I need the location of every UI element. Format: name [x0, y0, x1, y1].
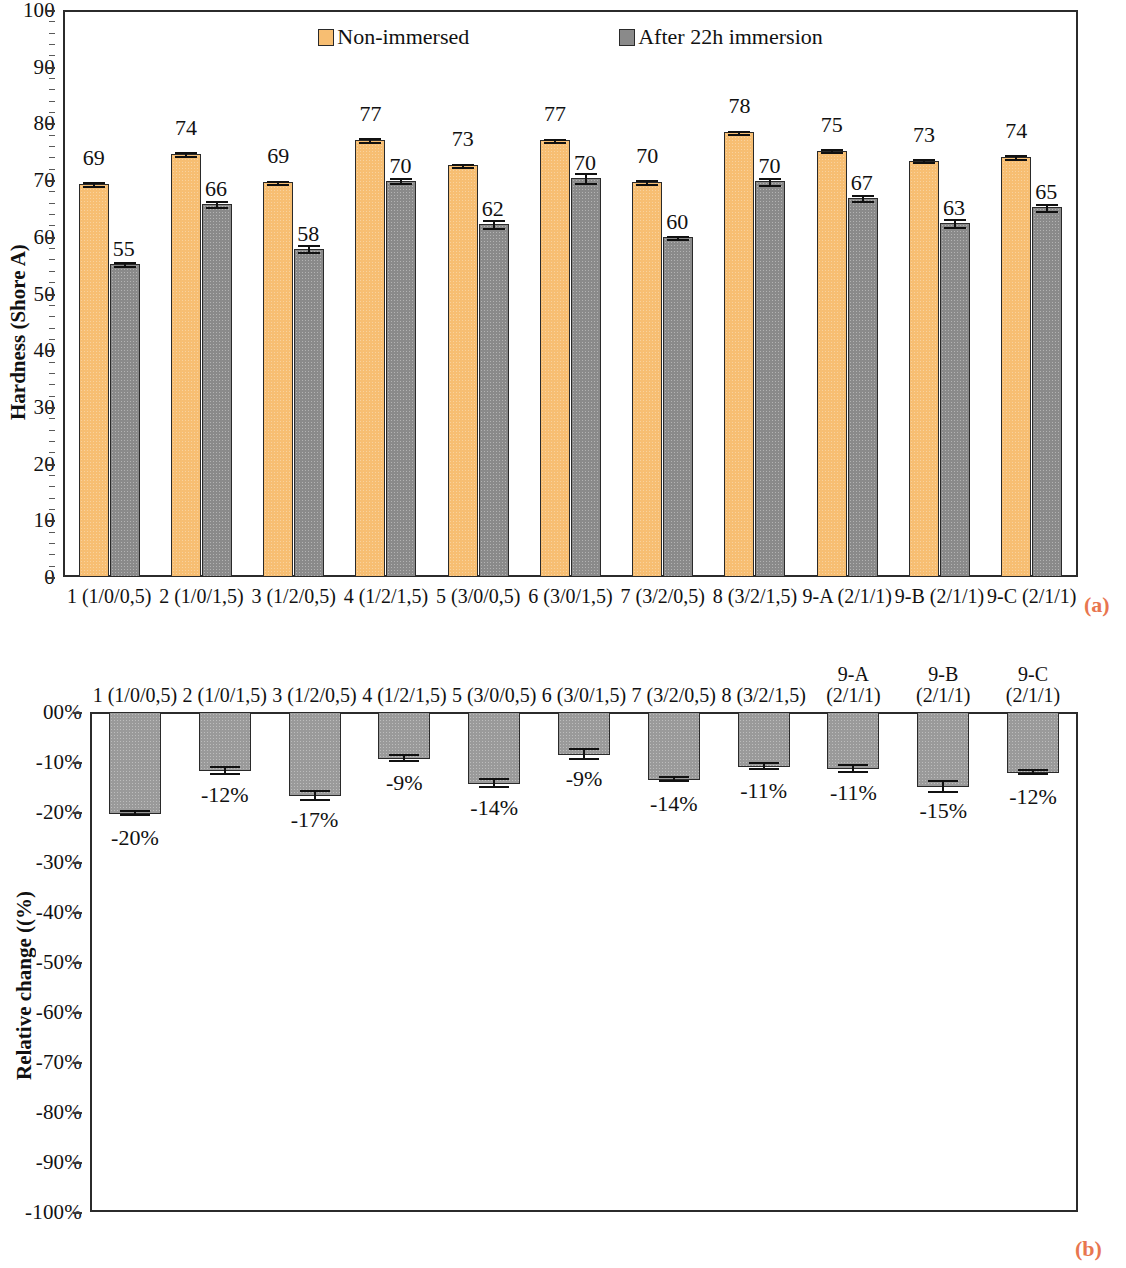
chart-a-y-tick-minor — [49, 430, 55, 431]
chart-a-error-bar — [636, 180, 658, 186]
chart-b-bar-group: -11% — [719, 712, 809, 1212]
chart-a-value-label: 70 — [758, 153, 780, 179]
chart-b-x-label: 9-B(2/1/1) — [898, 664, 988, 707]
chart-a-y-tick-minor — [49, 146, 55, 147]
chart-a-y-tick-minor — [49, 135, 55, 136]
chart-a-error-bar — [359, 138, 381, 144]
chart-a-x-axis-labels: 1 (1/0/0,5)2 (1/0/1,5)3 (1/2/0,5)4 (1/2/… — [63, 585, 1078, 615]
chart-b-bar-group: -15% — [898, 712, 988, 1212]
chart-a-value-label: 74 — [175, 115, 197, 141]
chart-a-value-label: 73 — [452, 126, 474, 152]
chart-a-bar-after-immersion: 63 — [940, 223, 970, 577]
chart-b-bar-relative-change: -9% — [558, 712, 610, 755]
chart-a-value-label: 75 — [821, 112, 843, 138]
chart-b-y-tick-mark — [73, 912, 82, 914]
chart-b-y-tick-label: -10% — [10, 750, 82, 775]
chart-b-error-bar — [928, 780, 958, 793]
chart-b-error-bar — [569, 748, 599, 760]
error-cap-bottom — [114, 266, 136, 268]
chart-a-bar-non-immersed: 70 — [632, 182, 662, 577]
chart-a-x-label: 6 (3/0/1,5) — [524, 585, 616, 615]
chart-b-value-label: -12% — [201, 782, 249, 808]
error-cap-bottom — [389, 760, 419, 762]
chart-b-y-axis-title: Relative change ((%) — [12, 790, 37, 1080]
chart-b-value-label: -11% — [830, 780, 877, 806]
chart-a-y-tick-minor — [49, 475, 55, 476]
chart-a-y-tick-minor — [49, 316, 55, 317]
chart-a-y-tick-minor — [49, 214, 55, 215]
chart-a-x-label: 1 (1/0/0,5) — [63, 585, 155, 615]
chart-b-bar-group: -9% — [359, 712, 449, 1212]
chart-a-y-tick-minor — [49, 157, 55, 158]
chart-b-bars: -20%-12%-17%-9%-14%-9%-14%-11%-11%-15%-1… — [90, 712, 1078, 1212]
chart-a-bar-group: 7870 — [709, 10, 801, 577]
chart-a-y-tick-minor — [49, 532, 55, 533]
chart-a-y-tick-minor — [49, 498, 55, 499]
chart-a-bar-after-immersion: 60 — [663, 237, 693, 577]
chart-a-error-bar — [821, 149, 843, 155]
chart-b-bar-relative-change: -9% — [378, 712, 430, 759]
chart-b-bar-group: -17% — [270, 712, 360, 1212]
chart-a-y-tick-minor — [49, 418, 55, 419]
error-cap-bottom — [928, 791, 958, 793]
chart-a-bar-group: 6955 — [63, 10, 155, 577]
chart-a-bar-after-immersion: 67 — [848, 198, 878, 577]
chart-a-bar-non-immersed: 69 — [263, 182, 293, 577]
chart-a-x-label: 2 (1/0/1,5) — [155, 585, 247, 615]
chart-a-y-tick-mark — [46, 180, 55, 182]
chart-a-bar-non-immersed: 77 — [540, 140, 570, 577]
chart-b-bar-relative-change: -11% — [738, 712, 790, 767]
error-cap-bottom — [838, 771, 868, 773]
chart-b-x-label: 1 (1/0/0,5) — [90, 685, 180, 707]
error-cap-bottom — [210, 773, 240, 775]
chart-b-y-tick-mark — [73, 812, 82, 814]
error-cap-bottom — [544, 142, 566, 144]
chart-a-error-bar — [267, 181, 289, 187]
chart-a-y-tick-mark — [46, 10, 55, 12]
chart-b-x-axis-labels: 1 (1/0/0,5)2 (1/0/1,5)3 (1/2/0,5)4 (1/2/… — [90, 645, 1078, 707]
chart-b-y-tick-label: -80% — [10, 1100, 82, 1125]
chart-a-y-tick-minor — [49, 554, 55, 555]
chart-a-y-tick-minor — [49, 373, 55, 374]
chart-b-value-label: -15% — [919, 798, 967, 824]
chart-a-y-tick-minor — [49, 44, 55, 45]
chart-b-value-label: -14% — [470, 795, 518, 821]
chart-a-bar-group: 7567 — [801, 10, 893, 577]
chart-a-value-label: 73 — [913, 122, 935, 148]
chart-a-value-label: 55 — [113, 236, 135, 262]
chart-a-value-label: 58 — [297, 221, 319, 247]
chart-b-x-label: 7 (3/2/0,5) — [629, 685, 719, 707]
chart-a-bar-group: 7770 — [524, 10, 616, 577]
error-cap-bottom — [569, 758, 599, 760]
chart-b-y-tick-mark — [73, 762, 82, 764]
error-cap-bottom — [83, 186, 105, 188]
chart-b-value-label: -12% — [1009, 784, 1057, 810]
chart-a-value-label: 69 — [267, 143, 289, 169]
chart-b-bar-group: -14% — [629, 712, 719, 1212]
chart-b-error-bar — [838, 764, 868, 773]
chart-a-y-axis-title: Hardness (Shore A) — [6, 170, 31, 420]
chart-a-bar-after-immersion: 58 — [294, 249, 324, 577]
chart-a-y-tick-mark — [46, 294, 55, 296]
error-cap-bottom — [267, 184, 289, 186]
chart-a-y-tick-minor — [49, 271, 55, 272]
chart-a-y-tick-mark — [46, 407, 55, 409]
error-cap-bottom — [452, 167, 474, 169]
chart-a-y-tick-mark — [46, 577, 55, 579]
error-cap-bottom — [175, 156, 197, 158]
error-cap-bottom — [1005, 159, 1027, 161]
chart-b-value-label: -9% — [566, 766, 603, 792]
error-cap-bottom — [636, 184, 658, 186]
chart-b-y-tick-mark — [73, 1212, 82, 1214]
error-stem — [585, 175, 587, 183]
chart-a-y-tick-mark — [46, 237, 55, 239]
chart-b-bar-group: -11% — [809, 712, 899, 1212]
chart-a-bar-group: 7465 — [986, 10, 1078, 577]
chart-a-value-label: 70 — [636, 143, 658, 169]
chart-b-bar-relative-change: -15% — [917, 712, 969, 787]
chart-a-bar-group: 7466 — [155, 10, 247, 577]
chart-b-value-label: -20% — [111, 825, 159, 851]
chart-b-y-tick-mark — [73, 1112, 82, 1114]
chart-b-bar-relative-change: -17% — [289, 712, 341, 796]
chart-a-bar-after-immersion: 62 — [479, 224, 509, 577]
